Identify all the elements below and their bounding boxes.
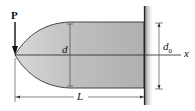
beam-drawing (0, 0, 195, 111)
wall-shadow (145, 6, 154, 105)
length-label: L (77, 91, 83, 102)
root-depth-label: d0 (163, 41, 172, 55)
depth-label: d (62, 44, 68, 55)
load-label: P (11, 10, 18, 21)
root-depth-label-sub: 0 (169, 47, 173, 55)
x-axis-label: x (184, 48, 189, 59)
beam-diagram: P d d0 x L (0, 0, 195, 111)
